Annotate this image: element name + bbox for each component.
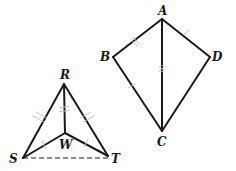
- label-b: B: [99, 50, 110, 64]
- segment-bc: [113, 57, 162, 131]
- label-r: R: [59, 68, 70, 82]
- faint-mark-ac: S: [158, 63, 165, 74]
- label-w: W: [59, 138, 74, 152]
- geometry-diagram: S A B D C R S T W: [0, 0, 236, 171]
- label-d: D: [211, 50, 223, 64]
- label-c: C: [157, 135, 167, 149]
- label-s: S: [9, 152, 18, 166]
- label-a: A: [157, 4, 167, 18]
- segment-rw: [64, 84, 65, 133]
- kite-abcd: S: [113, 19, 210, 131]
- segment-ad: [162, 19, 210, 57]
- label-t: T: [111, 152, 121, 166]
- segment-ab: [113, 19, 162, 57]
- segment-dc: [162, 57, 210, 131]
- tick-mark-rs: [33, 116, 44, 122]
- tick-mark-ad: [183, 30, 189, 35]
- tick-mark-rs: [36, 112, 47, 118]
